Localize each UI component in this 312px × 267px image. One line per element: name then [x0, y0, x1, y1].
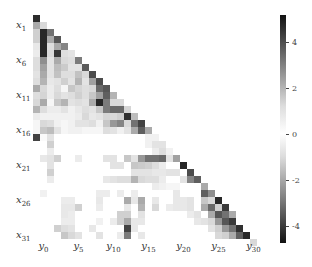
heatmap-cell — [47, 148, 54, 155]
heatmap-cell — [54, 43, 61, 50]
heatmap-cell — [40, 57, 47, 64]
heatmap-cell — [110, 106, 117, 113]
colorbar — [280, 15, 286, 243]
heatmap-cell — [47, 127, 54, 134]
heatmap-cell — [75, 113, 82, 120]
heatmap-cell — [33, 50, 40, 57]
heatmap-cell — [68, 50, 75, 57]
heatmap-cell — [229, 232, 236, 239]
heatmap-cell — [40, 127, 47, 134]
heatmap-cell — [68, 211, 75, 218]
heatmap-cell — [89, 85, 96, 92]
heatmap-cell — [173, 197, 180, 204]
row-tick-label: x31 — [16, 229, 31, 243]
heatmap-cell — [124, 176, 131, 183]
heatmap-cell — [131, 162, 138, 169]
heatmap-cell — [68, 204, 75, 211]
heatmap-cell — [96, 85, 103, 92]
heatmap-cell — [103, 113, 110, 120]
heatmap-cell — [110, 162, 117, 169]
heatmap-cell — [47, 71, 54, 78]
heatmap-cell — [103, 190, 110, 197]
heatmap-cell — [103, 92, 110, 99]
heatmap-cell — [103, 99, 110, 106]
heatmap-cell — [47, 43, 54, 50]
heatmap-cell — [54, 71, 61, 78]
heatmap-cell — [40, 29, 47, 36]
heatmap-cell — [40, 64, 47, 71]
heatmap-cell — [47, 50, 54, 57]
heatmap-cell — [96, 120, 103, 127]
heatmap-cell — [138, 120, 145, 127]
heatmap-cell — [40, 120, 47, 127]
heatmap-cell — [110, 92, 117, 99]
heatmap-cell — [201, 183, 208, 190]
heatmap-cell — [208, 225, 215, 232]
heatmap-cell — [68, 99, 75, 106]
heatmap-cell — [215, 197, 222, 204]
col-tick-label: y0 — [38, 240, 48, 254]
heatmap-cell — [159, 176, 166, 183]
heatmap-cell — [145, 134, 152, 141]
heatmap-cell — [117, 106, 124, 113]
colorbar-tick-mark — [286, 226, 289, 227]
colorbar-tick-mark — [286, 88, 289, 89]
heatmap-cell — [47, 36, 54, 43]
heatmap-cell — [117, 162, 124, 169]
heatmap-cell — [117, 190, 124, 197]
heatmap-cell — [194, 218, 201, 225]
colorbar-tick-label: -2 — [292, 175, 300, 184]
heatmap-cell — [138, 232, 145, 239]
heatmap-cell — [54, 120, 61, 127]
colorbar-tick-label: 2 — [292, 84, 297, 93]
heatmap-cell — [82, 127, 89, 134]
heatmap-cell — [54, 64, 61, 71]
heatmap-cell — [47, 162, 54, 169]
heatmap-cell — [33, 134, 40, 141]
heatmap-cell — [152, 176, 159, 183]
heatmap-cell — [110, 155, 117, 162]
heatmap-cell — [138, 155, 145, 162]
heatmap-cell — [75, 155, 82, 162]
heatmap-cell — [40, 36, 47, 43]
heatmap-cell — [110, 120, 117, 127]
heatmap-cell — [75, 232, 82, 239]
heatmap-cell — [229, 218, 236, 225]
heatmap-cell — [61, 232, 68, 239]
heatmap-cell — [61, 204, 68, 211]
row-tick-label: x1 — [16, 19, 26, 33]
heatmap-cell — [82, 92, 89, 99]
heatmap-cell — [68, 232, 75, 239]
heatmap-cell — [96, 78, 103, 85]
heatmap-cell — [166, 155, 173, 162]
heatmap-cell — [159, 183, 166, 190]
heatmap-cell — [215, 225, 222, 232]
heatmap-cell — [138, 176, 145, 183]
heatmap-cell — [75, 57, 82, 64]
heatmap-cell — [117, 232, 124, 239]
heatmap-cell — [54, 92, 61, 99]
heatmap-cell — [124, 113, 131, 120]
heatmap-cell — [61, 127, 68, 134]
heatmap-cell — [89, 78, 96, 85]
heatmap-cell — [166, 169, 173, 176]
heatmap-cell — [40, 50, 47, 57]
heatmap-cell — [124, 155, 131, 162]
row-tick-label: x11 — [16, 89, 31, 103]
heatmap-cell — [145, 162, 152, 169]
heatmap-cell — [187, 197, 194, 204]
heatmap-cell — [159, 148, 166, 155]
heatmap-cell — [208, 197, 215, 204]
heatmap-cell — [201, 197, 208, 204]
heatmap-cell — [138, 169, 145, 176]
heatmap-cell — [61, 197, 68, 204]
heatmap-cell — [236, 232, 243, 239]
heatmap-cell — [103, 176, 110, 183]
row-tick-label: x16 — [16, 124, 31, 138]
heatmap-cell — [40, 78, 47, 85]
heatmap-cell — [229, 225, 236, 232]
heatmap-cell — [75, 85, 82, 92]
heatmap-cell — [194, 211, 201, 218]
heatmap-cell — [40, 22, 47, 29]
heatmap-cell — [96, 99, 103, 106]
